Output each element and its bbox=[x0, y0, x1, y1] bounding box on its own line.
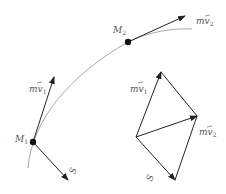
momentum-impulse-diagram: M2 mv2 M1 mv1 S mv1 mv2 S bbox=[0, 0, 226, 194]
label-mv1-left: mv1 bbox=[29, 84, 46, 95]
label-m1: M1 bbox=[14, 134, 28, 145]
para-mv1 bbox=[136, 72, 161, 137]
point-m2 bbox=[125, 39, 131, 45]
para-s bbox=[136, 137, 175, 180]
label-s-left: S bbox=[67, 166, 79, 175]
label-mv2-top: mv2 bbox=[196, 16, 214, 27]
label-s-para: S bbox=[144, 173, 156, 182]
label-mv2-para: mv2 bbox=[199, 127, 217, 138]
label-m2: M2 bbox=[112, 25, 126, 36]
vector-s-at-m1 bbox=[33, 142, 68, 180]
label-mv1-para: mv1 bbox=[130, 84, 147, 95]
trajectory-curve bbox=[28, 29, 192, 168]
point-m1 bbox=[30, 139, 36, 145]
para-right-edge bbox=[175, 116, 197, 180]
para-mv2 bbox=[136, 116, 197, 137]
vector-arrow-bar-mv1-para bbox=[138, 82, 143, 83]
para-top-edge bbox=[161, 72, 197, 116]
vector-arrow-bar-mv1-left bbox=[37, 82, 42, 83]
